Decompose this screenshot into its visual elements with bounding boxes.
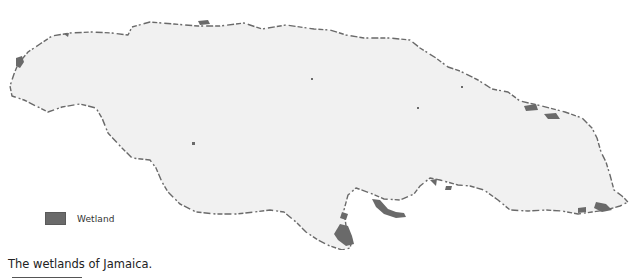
figure-caption: The wetlands of Jamaica. [8, 257, 152, 271]
wetland-inland-dot-3 [461, 86, 463, 88]
wetland-north-coast [198, 20, 210, 25]
wetland-inland-dot [192, 142, 195, 145]
wetland-south-portland-bight [372, 199, 406, 218]
legend-label-wetland: Wetland [77, 214, 115, 224]
wetland-swatch [45, 212, 66, 225]
wetland-south-central [430, 179, 437, 186]
wetland-inland-dot-4 [311, 78, 313, 80]
map-legend: Wetland [45, 212, 115, 225]
wetland-southeast-2 [578, 207, 586, 213]
wetland-south-central-2 [445, 186, 452, 190]
wetland-inland-dot-2 [417, 107, 419, 109]
